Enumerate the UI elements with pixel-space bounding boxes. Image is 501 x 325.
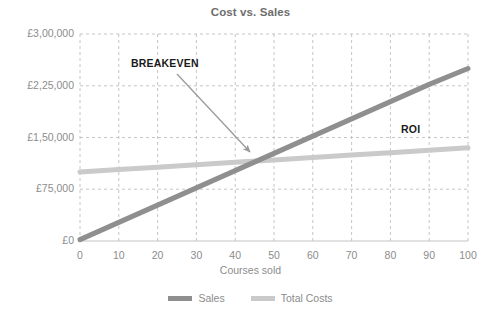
legend-item[interactable]: Sales: [168, 292, 224, 304]
x-axis-tick-label: 0: [60, 249, 100, 261]
chart-legend: SalesTotal Costs: [0, 292, 501, 304]
x-axis-tick-label: 50: [254, 249, 294, 261]
x-axis-tick-label: 20: [138, 249, 178, 261]
y-axis-tick-label: £2,25,000: [8, 79, 74, 91]
legend-swatch-icon: [251, 296, 275, 301]
chart-container: Cost vs. Sales: [0, 0, 501, 325]
y-axis-tick-label: £1,50,000: [8, 131, 74, 143]
legend-swatch-icon: [168, 296, 192, 301]
x-axis-title: Courses sold: [0, 264, 501, 276]
x-axis-tick-label: 60: [293, 249, 333, 261]
legend-label: Sales: [198, 292, 224, 304]
x-axis-tick-label: 70: [332, 249, 372, 261]
y-axis-tick-label: £75,000: [8, 182, 74, 194]
annotation-roi-label: ROI: [401, 123, 420, 135]
legend-item[interactable]: Total Costs: [251, 292, 333, 304]
x-axis-tick-label: 80: [370, 249, 410, 261]
annotation-breakeven-label: BREAKEVEN: [131, 57, 199, 69]
x-axis-tick-label: 30: [176, 249, 216, 261]
y-axis-tick-label: £0: [8, 234, 74, 246]
x-axis-tick-label: 90: [409, 249, 449, 261]
x-axis-tick-label: 10: [99, 249, 139, 261]
legend-label: Total Costs: [281, 292, 333, 304]
y-axis-tick-label: £3,00,000: [8, 27, 74, 39]
x-axis-tick-label: 100: [448, 249, 488, 261]
chart-plot-svg: [0, 0, 501, 325]
x-axis-tick-label: 40: [215, 249, 255, 261]
